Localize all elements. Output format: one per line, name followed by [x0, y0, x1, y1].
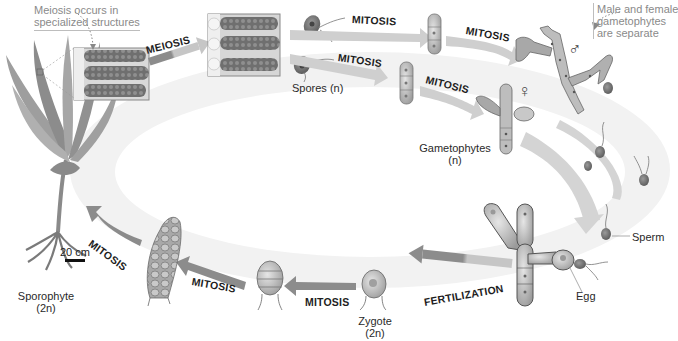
stage-ploidy: (2n): [14, 302, 78, 314]
sporangia-detail: [208, 14, 280, 76]
spores-label: Spores (n): [292, 82, 343, 94]
stage-ploidy: (2n): [355, 327, 395, 339]
early-embryo-illustration: [257, 261, 283, 310]
scale-label: 20 cm: [60, 246, 90, 258]
stage-ploidy: (n): [419, 154, 491, 166]
meiosis-location-note: Meiosis occurs in specialized structures: [34, 4, 140, 31]
mitosis-label-upper: MITOSIS: [352, 13, 397, 27]
sporangia-inset: [74, 48, 149, 100]
mitosis-label-zygote: MITOSIS: [305, 296, 349, 308]
sperm-label: Sperm: [632, 231, 664, 243]
sperm-at-egg: [574, 259, 608, 280]
egg-label: Egg: [576, 290, 596, 302]
stage-name: Sporophyte: [14, 290, 78, 302]
egg-pointer: [570, 268, 582, 292]
scale-bar: [65, 259, 85, 262]
note-line-2: specialized structures: [34, 16, 140, 28]
zygote-label: Zygote (2n): [355, 315, 395, 339]
young-gametophyte-upper: [428, 14, 441, 54]
note-line-1: Male and female: [597, 3, 678, 15]
stage-name: Gametophytes: [419, 142, 491, 154]
stage-name: Zygote: [355, 315, 395, 327]
young-gametophyte-lower: [400, 62, 413, 104]
gametophytes-label: Gametophytes (n): [419, 142, 491, 166]
sporophyte-label: Sporophyte (2n): [14, 290, 78, 314]
note-line-1: Meiosis occurs in: [34, 4, 140, 16]
mitosis-arrow-upper: [290, 28, 432, 48]
male-symbol: ♂: [568, 40, 582, 58]
zygote-illustration: [360, 270, 386, 310]
female-symbol: ♀: [518, 82, 532, 100]
note-line-2: gametophytes: [597, 15, 678, 27]
separate-gametophytes-note: Male and female gametophytes are separat…: [593, 3, 678, 39]
note-line-3: are separate: [597, 27, 678, 39]
